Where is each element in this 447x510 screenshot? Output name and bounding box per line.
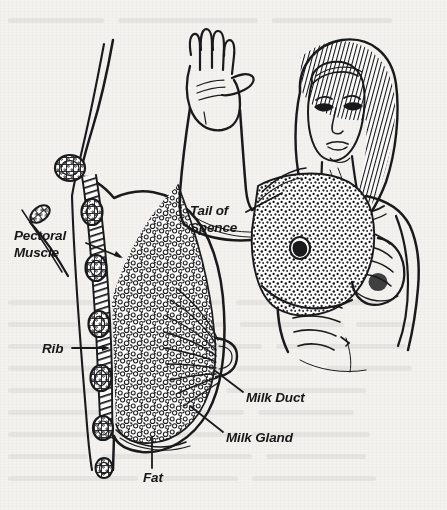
label-pectoral-muscle: Pectoral Muscle (14, 228, 66, 261)
label-milk-gland: Milk Gland (226, 430, 293, 446)
woman-figure (180, 29, 419, 372)
cutaway-breast-tissue (250, 168, 380, 325)
torso (250, 168, 419, 372)
label-milk-duct: Milk Duct (246, 390, 305, 406)
nipple (216, 338, 237, 377)
label-fat: Fat (143, 470, 163, 486)
label-tail-of-spence: Tail of Spence (190, 203, 237, 236)
breast-anatomy-figure: Pectoral Muscle Rib Tail of Spence Milk … (0, 0, 447, 510)
rib-section-labeled (89, 311, 110, 337)
clavicle-section (55, 155, 85, 181)
leader-rib (72, 345, 110, 351)
scan-speck (341, 337, 349, 346)
label-rib: Rib (42, 341, 63, 357)
